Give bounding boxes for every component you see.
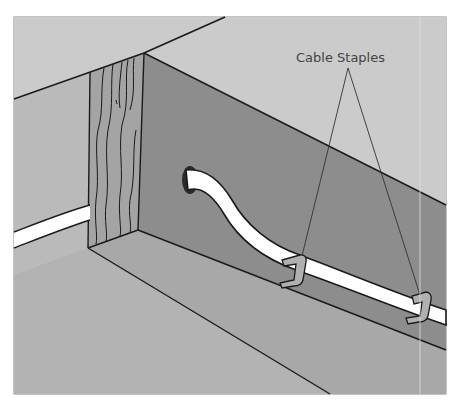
cable-staples-label: Cable Staples bbox=[296, 50, 385, 65]
left-wall-plane bbox=[14, 72, 90, 275]
joist-cable-illustration: Cable Staples bbox=[0, 0, 451, 406]
